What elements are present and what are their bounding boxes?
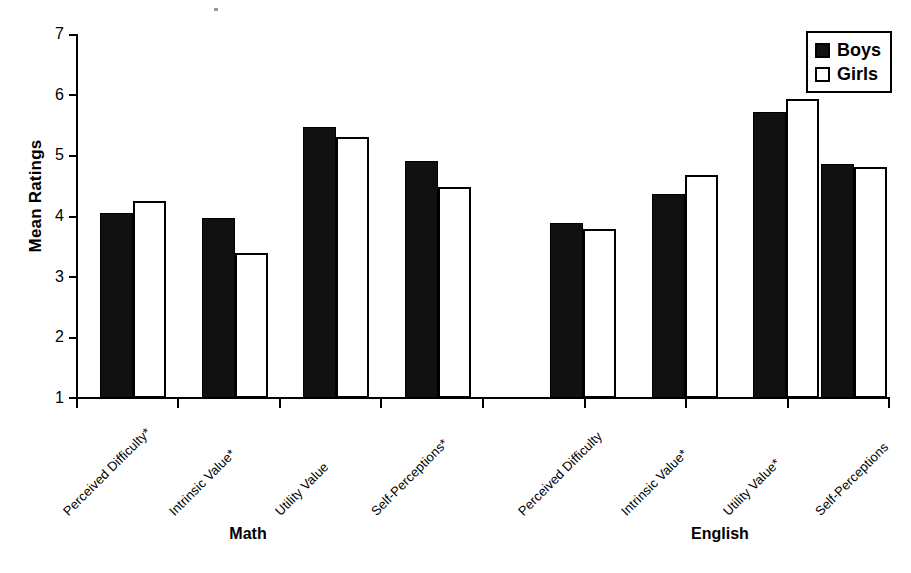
group-label-math: Math <box>178 525 318 543</box>
category-label: Perceived Difficulty <box>515 429 605 519</box>
x-tick <box>279 399 281 408</box>
category-label: Self-Perceptions* <box>368 436 451 519</box>
bar-girls <box>786 99 819 398</box>
y-tick <box>69 155 77 157</box>
bar-girls <box>133 201 166 398</box>
bar-boys <box>821 164 854 398</box>
bar-boys <box>100 213 133 398</box>
y-tick-label: 5 <box>38 147 64 163</box>
legend-label-girls: Girls <box>837 65 878 83</box>
category-label: Intrinsic Value* <box>618 446 690 518</box>
bar-girls <box>235 253 268 398</box>
bar-girls <box>583 229 616 398</box>
legend: Boys Girls <box>806 31 892 93</box>
y-tick-label: 7 <box>38 26 64 42</box>
legend-item-boys: Boys <box>815 38 881 62</box>
legend-item-girls: Girls <box>815 62 881 86</box>
bar-boys <box>550 223 583 398</box>
bar-boys <box>652 194 685 398</box>
y-tick-label: 3 <box>38 269 64 285</box>
category-label: Self-Perceptions <box>812 439 891 518</box>
x-tick <box>888 399 890 408</box>
category-label: Utility Value <box>272 459 331 518</box>
bar-boys <box>753 112 786 398</box>
bar-boys <box>303 127 336 398</box>
x-tick <box>787 399 789 408</box>
category-label: Intrinsic Value* <box>166 446 238 518</box>
y-tick-label: 1 <box>38 390 64 406</box>
group-label-english: English <box>645 525 795 543</box>
legend-label-boys: Boys <box>837 41 881 59</box>
x-tick <box>584 399 586 408</box>
x-tick <box>685 399 687 408</box>
bar-girls <box>685 175 718 398</box>
y-tick-label: 4 <box>38 208 64 224</box>
bar-girls <box>854 167 887 398</box>
bar-boys <box>202 218 235 398</box>
y-tick <box>69 34 77 36</box>
x-tick <box>177 399 179 408</box>
bar-girls <box>438 187 471 398</box>
y-tick <box>69 276 77 278</box>
bar-boys <box>405 161 438 398</box>
category-label: Perceived Difficulty* <box>60 425 154 519</box>
x-tick <box>380 399 382 408</box>
hollow-square-icon <box>815 67 830 82</box>
x-tick <box>482 399 484 408</box>
bar-girls <box>336 137 369 398</box>
scan-artifact <box>214 8 218 11</box>
bar-chart: Mean Ratings 7 6 5 4 3 2 1 Perceived Dif… <box>0 0 911 573</box>
x-tick <box>76 399 78 408</box>
y-tick-label: 6 <box>38 87 64 103</box>
y-tick <box>69 94 77 96</box>
y-axis-title: Mean Ratings <box>26 116 46 276</box>
y-tick-label: 2 <box>38 329 64 345</box>
category-label: Utility Value* <box>720 456 783 519</box>
filled-square-icon <box>815 43 830 58</box>
y-tick <box>69 216 77 218</box>
y-tick <box>69 337 77 339</box>
